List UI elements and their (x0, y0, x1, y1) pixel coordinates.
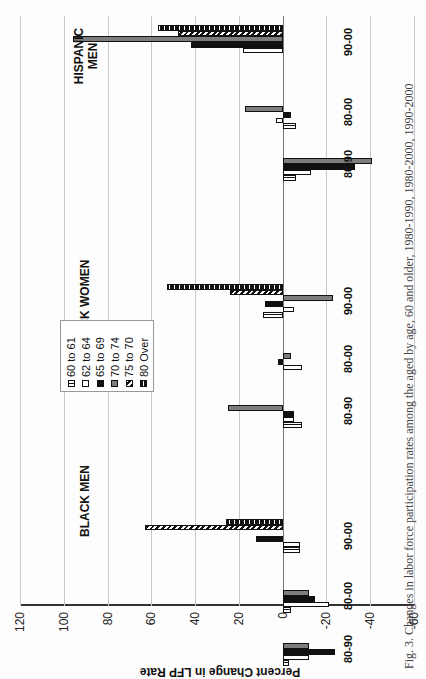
vertical-stripes-swatch-icon (68, 380, 75, 387)
bar-62-to-64 (283, 655, 309, 661)
category-label: 90-00 (342, 17, 354, 67)
gridline (326, 16, 327, 606)
gridline (239, 16, 240, 606)
bar-62-to-64 (283, 170, 311, 176)
bar-60-to-61 (283, 422, 303, 428)
category-label: 80-90 (342, 139, 354, 189)
bar-62-to-64 (243, 48, 282, 54)
legend-item-65-69: 65 to 69 (93, 325, 108, 387)
legend-item-60-61: 60 to 61 (64, 325, 79, 387)
y-axis-title: Percent Change in LFP Rate (120, 665, 320, 679)
bar-75-to-70 (230, 290, 283, 296)
y-tick-label: -20 (319, 612, 333, 646)
y-tick-label: -40 (363, 612, 377, 646)
bar-62-to-64 (283, 602, 329, 608)
bar-70-to-74 (283, 158, 373, 164)
bar-65-to-69 (283, 649, 336, 655)
plot-area: Percent Change in LFP Rate 80-9080-0090-… (20, 16, 414, 606)
white-swatch-icon (82, 380, 89, 387)
diagonal-hatch-swatch-icon (126, 380, 133, 387)
bar-70-to-74 (283, 590, 309, 596)
y-tick-label: 20 (232, 612, 246, 646)
gridline (20, 16, 21, 606)
legend-item-62-64: 62 to 64 (79, 325, 94, 387)
bar-65-to-69 (265, 301, 283, 307)
category-label: 90-00 (342, 276, 354, 326)
legend-label: 65 to 69 (94, 337, 106, 377)
bar-60-to-61 (283, 660, 290, 666)
y-axis-line (20, 604, 414, 606)
group-label-hispanic-line2: MEN (86, 16, 100, 96)
legend-item-75-70: 75 to 70 (122, 325, 137, 387)
y-tick-label: 80 (101, 612, 115, 646)
bar-80-over (167, 284, 283, 290)
bar-65-to-69 (283, 596, 316, 602)
category-label: 80-00 (342, 87, 354, 137)
bar-62-to-64 (283, 365, 303, 371)
legend-label: 80 Over (138, 338, 150, 377)
bar-62-to-64 (276, 118, 283, 124)
figure-caption: Fig. 3. Changes in labor force participa… (402, 9, 417, 669)
bar-70-to-74 (228, 405, 283, 411)
bar-75-to-70 (178, 31, 283, 37)
gridline (195, 16, 196, 606)
category-label: 80-90 (342, 624, 354, 674)
category-label: 80-00 (342, 571, 354, 621)
bar-80-over (158, 25, 283, 31)
bar-65-to-69 (278, 359, 282, 365)
legend: 60 to 61 62 to 64 65 to 69 70 to 74 75 t… (60, 320, 154, 392)
bar-80-over (226, 519, 283, 525)
group-label-hispanic-line1: HISPANIC (72, 16, 86, 96)
black-swatch-icon (97, 380, 104, 387)
category-label: 90-00 (342, 511, 354, 561)
group-label-hispanic-men: HISPANIC MEN (72, 16, 100, 96)
y-tick-label: 100 (57, 612, 71, 646)
legend-label: 75 to 70 (123, 337, 135, 377)
gridline (370, 16, 371, 606)
legend-item-70-74: 70 to 74 (108, 325, 123, 387)
legend-label: 62 to 64 (80, 337, 92, 377)
bar-75-to-70 (145, 525, 283, 531)
bar-65-to-69 (191, 42, 283, 48)
group-label-black-men: BLACK MEN (78, 456, 92, 546)
category-label: 80-00 (342, 334, 354, 384)
bar-70-to-74 (245, 106, 282, 112)
gray-swatch-icon (111, 380, 118, 387)
bar-62-to-64 (283, 307, 294, 313)
gridline (64, 16, 65, 606)
bar-62-to-64 (283, 542, 301, 548)
gridline (151, 16, 152, 606)
bar-60-to-61 (283, 175, 296, 181)
bar-60-to-61 (283, 547, 301, 553)
legend-item-80-over: 80 Over (137, 325, 152, 387)
bar-65-to-69 (283, 411, 294, 417)
bar-70-to-74 (283, 295, 333, 301)
bar-62-to-64 (283, 417, 294, 423)
dotted-hatch-swatch-icon (140, 380, 147, 387)
legend-label: 70 to 74 (109, 337, 121, 377)
y-tick-label: 40 (188, 612, 202, 646)
bar-70-to-74 (73, 36, 283, 42)
y-tick-label: 60 (144, 612, 158, 646)
bar-60-to-61 (263, 312, 283, 318)
rotated-chart-page: Percent Change in LFP Rate 80-9080-0090-… (0, 0, 426, 679)
bar-70-to-74 (283, 353, 292, 359)
bar-60-to-61 (283, 123, 296, 129)
category-label: 80-90 (342, 386, 354, 436)
legend-label: 60 to 61 (65, 337, 77, 377)
y-tick-label: 120 (13, 612, 27, 646)
gridline (108, 16, 109, 606)
y-tick-label: 0 (276, 612, 290, 646)
bar-65-to-69 (283, 112, 292, 118)
bar-65-to-69 (256, 536, 282, 542)
